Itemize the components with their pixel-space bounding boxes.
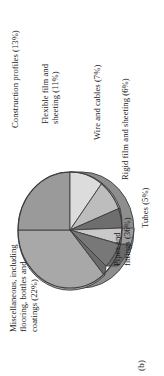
pie-label-tubes: Tubes (5%) — [140, 158, 150, 228]
pie-label-rigid: Rigid film and sheeting (6%) — [120, 60, 130, 180]
figure-panel: (b) — [0, 0, 164, 376]
pie-label-miscellaneous: Miscellaneous, including flooring, bottl… — [8, 212, 39, 332]
figure-inner: (b) — [0, 0, 164, 376]
pie-label-flexible: Flexible film and sheeting (11%) — [40, 34, 61, 124]
pie-label-wire: Wire and cables (7%) — [92, 50, 102, 140]
pie-label-construction: Construction profiles (13%) — [10, 8, 20, 128]
pie-label-pipes: Pipes and fittings (36%) — [112, 196, 133, 266]
panel-label: (b) — [136, 360, 146, 371]
